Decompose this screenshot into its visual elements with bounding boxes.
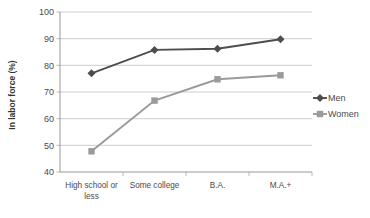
x-category-label-2: B.A. bbox=[210, 181, 225, 190]
series-women-point-2 bbox=[214, 76, 220, 82]
legend-item-women[interactable]: Women bbox=[313, 109, 359, 119]
y-tick-label-90: 90 bbox=[44, 34, 54, 44]
y-tick-label-60: 60 bbox=[44, 114, 54, 124]
y-tick-labels: 100 90 80 70 60 50 40 bbox=[39, 7, 54, 177]
series-women-point-1 bbox=[151, 97, 157, 103]
legend-men-marker-diamond-icon bbox=[316, 94, 324, 102]
y-tick-label-70: 70 bbox=[44, 87, 54, 97]
y-tick-label-50: 50 bbox=[44, 141, 54, 151]
y-tick-label-40: 40 bbox=[44, 167, 54, 177]
legend-women-label: Women bbox=[328, 109, 359, 119]
y-tick-label-80: 80 bbox=[44, 61, 54, 71]
chart-figure: In labor force (%) 100 90 80 70 60 50 40 bbox=[0, 0, 370, 218]
y-tickmarks bbox=[57, 12, 61, 172]
x-category-label-1: Some college bbox=[130, 181, 180, 190]
gridlines bbox=[60, 12, 312, 145]
series-men-point-1 bbox=[151, 46, 159, 54]
x-category-label-0-line-0: High school or bbox=[65, 181, 118, 190]
series-women bbox=[88, 72, 283, 154]
series-men-point-3 bbox=[277, 35, 285, 43]
x-category-labels: High school or less Some college B.A. M.… bbox=[65, 181, 291, 201]
legend-women-marker-square-icon bbox=[317, 111, 323, 117]
series-men-point-0 bbox=[88, 69, 96, 77]
x-tickmarks bbox=[123, 172, 312, 176]
series-men-point-2 bbox=[214, 45, 222, 53]
series-women-point-0 bbox=[88, 148, 94, 154]
x-category-label-3: M.A.+ bbox=[270, 181, 292, 190]
series-women-point-3 bbox=[277, 72, 283, 78]
legend-item-men[interactable]: Men bbox=[313, 93, 346, 103]
y-axis-title: In labor force (%) bbox=[7, 60, 17, 130]
y-tick-label-100: 100 bbox=[39, 7, 54, 17]
series-men-line bbox=[92, 39, 281, 73]
x-category-label-0-line-1: less bbox=[84, 192, 99, 201]
legend-men-label: Men bbox=[328, 93, 346, 103]
chart-legend: Men Women bbox=[313, 93, 359, 119]
line-chart: In labor force (%) 100 90 80 70 60 50 40 bbox=[0, 0, 370, 218]
series-women-line bbox=[92, 75, 281, 151]
series-men bbox=[88, 35, 285, 77]
